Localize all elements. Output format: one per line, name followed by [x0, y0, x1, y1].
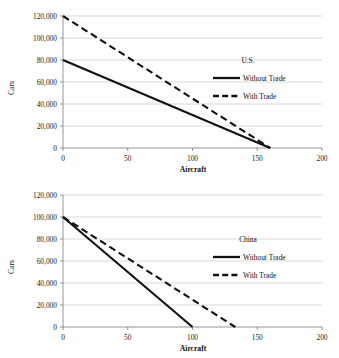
legend-label-with-trade-china: With Trade	[243, 271, 277, 280]
y-axis-title-us: Cars	[7, 81, 16, 95]
tick-labels-x-us: 050100150200	[61, 154, 328, 163]
x-tick-label-100: 100	[187, 154, 198, 163]
tick-labels-y-us: 020,00040,00060,00080,000100,000120,000	[33, 12, 57, 153]
x-tick-label-150: 150	[252, 333, 263, 342]
legend-china: China Without Trade With Trade	[213, 235, 286, 280]
y-tick-label-40000: 40,000	[37, 279, 58, 288]
legend-us: U.S. Without Trade With Trade	[213, 56, 286, 101]
y-tick-label-40000: 40,000	[37, 100, 58, 109]
chart-canvas-china: 020,00040,00060,00080,000100,000120,000 …	[0, 179, 339, 358]
x-tick-label-200: 200	[316, 154, 327, 163]
tick-labels-y-china: 020,00040,00060,00080,000100,000120,000	[33, 191, 57, 332]
y-tick-label-60000: 60,000	[37, 78, 58, 87]
series-line-with-trade-china	[63, 217, 235, 327]
y-tick-label-20000: 20,000	[37, 301, 58, 310]
x-tick-label-100: 100	[187, 333, 198, 342]
x-tick-label-0: 0	[61, 154, 65, 163]
x-tick-label-150: 150	[252, 154, 263, 163]
tick-labels-x-china: 050100150200	[61, 333, 328, 342]
y-tick-label-120000: 120,000	[33, 12, 57, 21]
x-tick-label-0: 0	[61, 333, 65, 342]
y-axis-title-china: Cars	[7, 260, 16, 274]
y-tick-label-100000: 100,000	[33, 34, 57, 43]
legend-title-china: China	[239, 235, 257, 244]
y-tick-label-0: 0	[53, 144, 57, 153]
series-lines-china	[63, 217, 235, 327]
y-tick-label-80000: 80,000	[37, 56, 58, 65]
y-tick-label-80000: 80,000	[37, 235, 58, 244]
legend-title-us: U.S.	[241, 56, 254, 65]
legend-label-without-trade-china: Without Trade	[243, 253, 286, 262]
y-tick-label-60000: 60,000	[37, 257, 58, 266]
chart-panel-china: 020,00040,00060,00080,000100,000120,000 …	[0, 179, 339, 358]
x-tick-label-50: 50	[124, 333, 132, 342]
series-line-without-trade-china	[63, 217, 193, 327]
x-tick-label-200: 200	[316, 333, 327, 342]
legend-label-with-trade-us: With Trade	[243, 92, 277, 101]
x-axis-title-us: Aircraft	[180, 165, 207, 174]
x-tick-label-50: 50	[124, 154, 132, 163]
x-axis-title-china: Aircraft	[180, 344, 207, 353]
gridlines-us	[63, 16, 322, 126]
y-tick-label-20000: 20,000	[37, 122, 58, 131]
line-chart-china: 020,00040,00060,00080,000100,000120,000 …	[0, 179, 339, 358]
axes-china	[60, 195, 322, 330]
y-tick-label-0: 0	[53, 323, 57, 332]
chart-canvas-us: 020,00040,00060,00080,000100,000120,000 …	[0, 0, 339, 179]
axes-us	[60, 16, 322, 151]
y-tick-label-120000: 120,000	[33, 191, 57, 200]
chart-panel-us: 020,00040,00060,00080,000100,000120,000 …	[0, 0, 339, 179]
legend-label-without-trade-us: Without Trade	[243, 74, 286, 83]
y-tick-label-100000: 100,000	[33, 213, 57, 222]
line-chart-us: 020,00040,00060,00080,000100,000120,000 …	[0, 0, 339, 179]
